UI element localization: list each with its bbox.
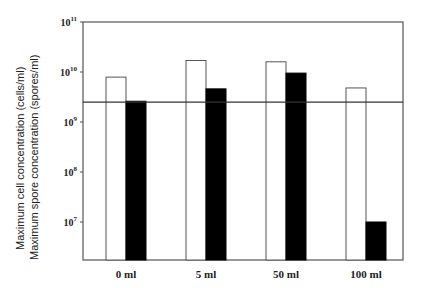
bar-chart: 10111010109108107 0 ml5 ml50 ml100 ml: [0, 0, 422, 288]
spore-bar-0-ml: [126, 101, 146, 260]
spore-bar-5-ml: [206, 89, 226, 260]
y-tick-label: 1011: [60, 15, 77, 28]
cell-bar-100-ml: [346, 88, 366, 260]
cell-bar-0-ml: [106, 77, 126, 260]
x-tick-label: 0 ml: [116, 268, 136, 280]
x-tick-label: 5 ml: [196, 268, 216, 280]
bars: [106, 60, 386, 260]
y-tick-label: 107: [64, 215, 78, 228]
y-tick-label: 108: [64, 165, 78, 178]
cell-bar-50-ml: [266, 62, 286, 260]
y-tick-label: 1010: [60, 65, 78, 78]
x-axis-labels: 0 ml5 ml50 ml100 ml: [116, 268, 382, 280]
y-axis-ticks: 10111010109108107: [60, 15, 83, 228]
x-tick-label: 100 ml: [350, 268, 381, 280]
y-tick-label: 109: [64, 115, 78, 128]
spore-bar-50-ml: [286, 73, 306, 260]
x-tick-label: 50 ml: [273, 268, 299, 280]
spore-bar-100-ml: [366, 222, 386, 260]
cell-bar-5-ml: [186, 60, 206, 260]
